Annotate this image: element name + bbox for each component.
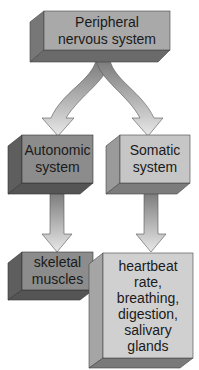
node-autonomic-label: Autonomic system — [22, 135, 93, 183]
node-effects-label: heartbeat rate, breathing, digestion, sa… — [103, 253, 193, 358]
node-skeletal-line-2: muscles — [32, 271, 83, 288]
node-somatic-label: Somatic system — [120, 135, 190, 183]
node-root-label: Peripheral nervous system — [44, 11, 170, 50]
node-root-line-2: nervous system — [58, 31, 156, 48]
node-somatic-line-1: Somatic — [130, 142, 181, 159]
node-effects-line-2: rate, — [134, 274, 162, 290]
node-skeletal-line-1: skeletal — [34, 254, 81, 271]
node-skeletal-label: skeletal muscles — [22, 252, 93, 290]
node-autonomic-line-1: Autonomic — [24, 142, 90, 159]
arrow-somatic-to-effects — [136, 192, 166, 252]
node-effects-line-3: breathing, — [117, 290, 179, 306]
arrow-autonomic-to-skeletal — [42, 192, 72, 252]
node-somatic-line-2: system — [133, 159, 177, 176]
node-autonomic-line-2: system — [35, 159, 79, 176]
split-arrow — [42, 60, 163, 136]
node-effects-line-4: digestion, — [118, 306, 178, 322]
node-effects-line-1: heartbeat — [118, 258, 177, 274]
node-root-line-1: Peripheral — [75, 14, 139, 31]
node-effects-line-5: salivary — [124, 322, 171, 338]
node-effects-line-6: glands — [127, 338, 168, 354]
